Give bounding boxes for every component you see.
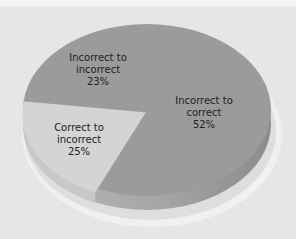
- label-incorrect-to-correct: Incorrect to correct 52%: [159, 95, 249, 131]
- pie-chart: [0, 0, 296, 239]
- label-line: incorrect: [34, 134, 124, 146]
- label-incorrect-to-incorrect: Incorrect to incorrect 23%: [53, 52, 143, 88]
- label-line: incorrect: [53, 64, 143, 76]
- label-line: correct: [159, 107, 249, 119]
- label-percent: 25%: [34, 146, 124, 158]
- label-percent: 23%: [53, 76, 143, 88]
- label-line: Correct to: [34, 122, 124, 134]
- label-correct-to-incorrect: Correct to incorrect 25%: [34, 122, 124, 158]
- label-percent: 52%: [159, 119, 249, 131]
- label-line: Incorrect to: [159, 95, 249, 107]
- label-line: Incorrect to: [53, 52, 143, 64]
